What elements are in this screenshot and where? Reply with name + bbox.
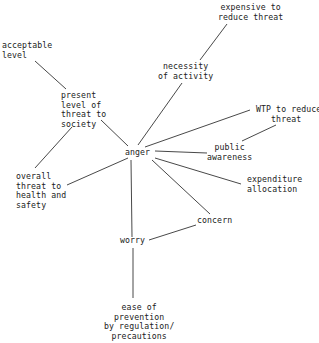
edge-anger-concern [152,160,210,214]
edge-necessity-expensive [200,24,227,60]
edge-anger-overall [67,158,128,185]
node-acceptable-level: acceptable level [2,41,52,60]
node-worry: worry [120,236,145,246]
node-wtp-to-reduce-threat: WTP to reduce threat [256,105,319,124]
node-necessity-of-activity: necessity of activity [158,62,213,81]
node-anger: anger [125,148,150,158]
node-ease-of-prevention: ease of prevention by regulation/ precau… [104,303,174,341]
edge-public-wtp [242,125,276,141]
node-public-awareness: public awareness [207,143,252,162]
edge-anger-public [155,151,207,153]
node-expensive-to-reduce-threat: expensive to reduce threat [218,3,283,22]
node-overall-threat-to-health-and-safety: overall threat to health and safety [16,172,66,210]
edge-anger-worry [131,160,132,237]
concept-map: expensive to reduce threat necessity of … [0,0,319,343]
node-concern: concern [197,216,232,226]
edge-present-overall [35,127,72,168]
edge-worry-concern [149,225,196,240]
edge-anger-necessity [138,83,182,145]
edge-present-acceptable [35,61,66,89]
node-present-level-of-threat: present level of threat to society [61,91,106,129]
node-expenditure-allocation: expenditure allocation [247,175,302,194]
